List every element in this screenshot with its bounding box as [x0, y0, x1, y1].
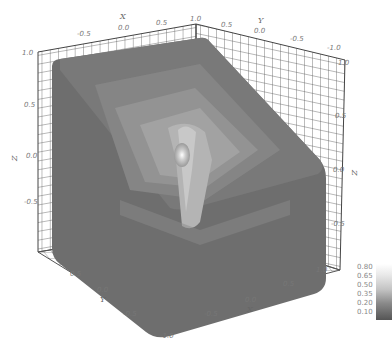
right-z-axis-label: Z — [350, 169, 359, 176]
right-z-tick: 0.5 — [335, 112, 347, 120]
left-z-tick: 0.5 — [24, 101, 36, 109]
top-x-axis-label: X — [119, 12, 126, 21]
top-x-tick: 1.0 — [190, 15, 202, 23]
bottom-y-tick: 0.5 — [70, 270, 82, 278]
colorbar-tick: 0.50 — [357, 281, 373, 289]
bottom-y-axis-label: Y — [100, 295, 106, 304]
top-y-tick: 0.5 — [221, 21, 233, 29]
bottom-y-tick: -0.5 — [123, 310, 137, 318]
top-y-axis-label: Y — [258, 16, 264, 25]
top-y-tick: -1.0 — [327, 44, 341, 52]
top-y-tick: 0.0 — [254, 27, 266, 35]
colorbar-tick: 0.35 — [357, 290, 373, 298]
right-z-tick: 0.0 — [333, 166, 345, 174]
left-z-axis-label: Z — [10, 155, 19, 162]
right-z-tick: -0.5 — [331, 220, 345, 228]
colorbar-tick: 0.10 — [357, 308, 373, 316]
top-x-tick: -0.5 — [77, 30, 91, 38]
bottom-x-axis-label: X — [246, 305, 253, 314]
right-z-tick: 1.0 — [338, 59, 350, 67]
3d-volume-plot[interactable]: X -0.5 0.0 0.5 1.0 Y 0.5 0.0 -0.5 -1.0 1… — [0, 0, 392, 346]
left-z-tick: 1.0 — [22, 49, 34, 57]
colorbar-tick: 0.65 — [357, 272, 373, 280]
top-x-tick: 0.0 — [118, 24, 130, 32]
colorbar-tick: 0.20 — [357, 299, 373, 307]
top-y-tick: -0.5 — [290, 35, 304, 43]
bottom-x-tick: 1.0 — [316, 266, 328, 274]
bottom-x-tick: 0.5 — [283, 280, 295, 288]
bottom-y-tick: 0.0 — [97, 286, 109, 294]
left-z-tick: -0.5 — [24, 198, 38, 206]
colorbar — [376, 264, 392, 320]
bottom-x-tick: -0.5 — [204, 310, 218, 318]
left-z-tick: 0.0 — [26, 152, 38, 160]
top-x-tick: 0.5 — [156, 19, 168, 27]
colorbar-tick: 0.80 — [357, 263, 373, 271]
bottom-y-tick: -1.0 — [160, 332, 174, 340]
bottom-x-tick: 0.0 — [245, 296, 257, 304]
